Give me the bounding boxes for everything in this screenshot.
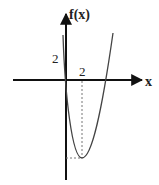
y-axis-label: f(x) bbox=[69, 7, 90, 23]
function-graph: f(x) x 2 2 bbox=[0, 0, 159, 185]
x-tick-label: 2 bbox=[79, 64, 86, 79]
parabola-curve bbox=[63, 33, 113, 158]
x-axis-label: x bbox=[145, 74, 152, 89]
y-tick-label: 2 bbox=[52, 51, 59, 66]
